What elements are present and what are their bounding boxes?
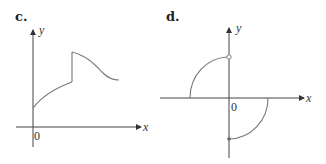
- origin-label-d: 0: [231, 100, 237, 114]
- origin-label-c: 0: [34, 129, 40, 143]
- x-axis-label-d: x: [305, 91, 312, 105]
- arc-d-upper: [190, 57, 227, 98]
- x-axis-label-c: x: [142, 120, 149, 134]
- open-circle-marker: [227, 55, 231, 59]
- y-axis-label-c: y: [38, 23, 45, 37]
- panel-label-c: c.: [15, 9, 27, 24]
- curve-c-right: [72, 52, 119, 80]
- panel-label-d: d.: [166, 9, 180, 24]
- closed-dot-marker: [227, 137, 231, 141]
- graph-c: c. y x 0: [15, 9, 149, 147]
- graphs-figure: c. y x 0 d. y x 0: [0, 0, 326, 164]
- graph-d: d. y x 0: [160, 9, 312, 158]
- y-axis-label-d: y: [235, 21, 242, 35]
- curve-c-left: [33, 82, 72, 108]
